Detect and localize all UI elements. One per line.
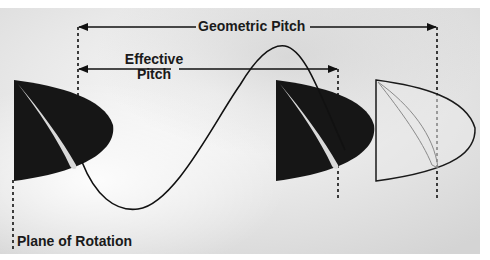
effective-pitch-label-line1: Effective [114, 52, 194, 67]
geometric-pitch-label: Geometric Pitch [198, 19, 305, 34]
plane-of-rotation-label: Plane of Rotation [17, 234, 132, 249]
propeller-pitch-diagram [0, 0, 490, 260]
effective-pitch-label-line2: Pitch [114, 67, 194, 82]
